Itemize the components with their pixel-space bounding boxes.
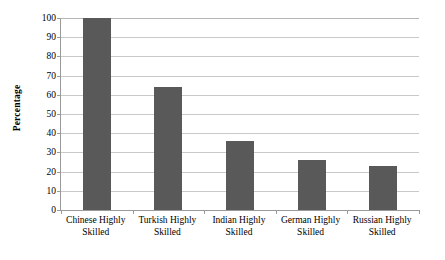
x-axis-label-line1: Russian Highly xyxy=(347,214,417,226)
y-axis-title-text: Percentage xyxy=(12,84,22,131)
bar-slot xyxy=(347,18,419,210)
bars-layer xyxy=(61,18,419,210)
bar-slot xyxy=(276,18,348,210)
y-tick-label: 60 xyxy=(47,90,57,100)
x-axis-label-line2: Skilled xyxy=(347,226,417,238)
y-tick-label: 80 xyxy=(47,51,57,61)
y-axis-title: Percentage xyxy=(8,0,26,215)
x-axis-label: Russian HighlySkilled xyxy=(346,214,418,238)
bar xyxy=(369,166,397,210)
x-axis-label: Turkish HighlySkilled xyxy=(132,214,204,238)
y-tick-label: 100 xyxy=(42,13,56,23)
x-axis-label-line1: Indian Highly xyxy=(204,214,274,226)
y-tick-mark xyxy=(57,210,61,211)
x-axis-label-line2: Skilled xyxy=(276,226,346,238)
x-tick-mark xyxy=(419,210,420,214)
x-axis-label: Chinese HighlySkilled xyxy=(60,214,132,238)
bar-chart: Percentage 1009080706050403020100 Chines… xyxy=(0,0,445,260)
x-axis-label-line2: Skilled xyxy=(133,226,203,238)
bar-slot xyxy=(204,18,276,210)
y-tick-label: 10 xyxy=(47,186,57,196)
bar-slot xyxy=(133,18,205,210)
bar xyxy=(154,87,182,210)
x-axis-label-line2: Skilled xyxy=(204,226,274,238)
y-tick-label: 0 xyxy=(51,205,56,215)
y-tick-label: 90 xyxy=(47,32,57,42)
bar xyxy=(298,160,326,210)
y-tick-label: 70 xyxy=(47,71,57,81)
y-tick-label: 30 xyxy=(47,147,57,157)
bar xyxy=(83,18,111,210)
plot-area xyxy=(60,18,419,211)
x-axis-label-line1: Chinese Highly xyxy=(61,214,131,226)
y-tick-label: 40 xyxy=(47,128,57,138)
x-axis-label-line1: Turkish Highly xyxy=(133,214,203,226)
x-axis-category-labels: Chinese HighlySkilledTurkish HighlySkill… xyxy=(60,214,418,238)
bar xyxy=(226,141,254,210)
x-axis-label: German HighlySkilled xyxy=(275,214,347,238)
x-axis-label: Indian HighlySkilled xyxy=(203,214,275,238)
y-tick-label: 20 xyxy=(47,167,57,177)
x-axis-label-line2: Skilled xyxy=(61,226,131,238)
y-tick-label: 50 xyxy=(47,109,57,119)
y-axis-tick-labels: 1009080706050403020100 xyxy=(30,13,56,210)
bar-slot xyxy=(61,18,133,210)
x-axis-label-line1: German Highly xyxy=(276,214,346,226)
